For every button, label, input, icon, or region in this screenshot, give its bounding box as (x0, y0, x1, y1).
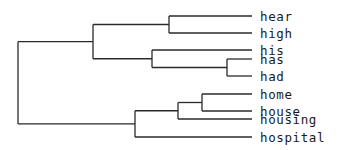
leaf-label-hospital: hospital (260, 130, 325, 145)
dendrogram: hear high his has had home house housing… (0, 0, 342, 150)
leaf-label-home: home (260, 87, 293, 102)
leaf-label-had: had (260, 69, 284, 84)
leaf-label-hear: hear (260, 9, 293, 24)
leaf-label-housing: housing (260, 112, 317, 127)
leaf-label-has: has (260, 52, 284, 67)
dendrogram-branches (18, 16, 252, 137)
leaf-label-high: high (260, 26, 293, 41)
leaf-labels: hear high his has had home house housing… (260, 9, 325, 145)
